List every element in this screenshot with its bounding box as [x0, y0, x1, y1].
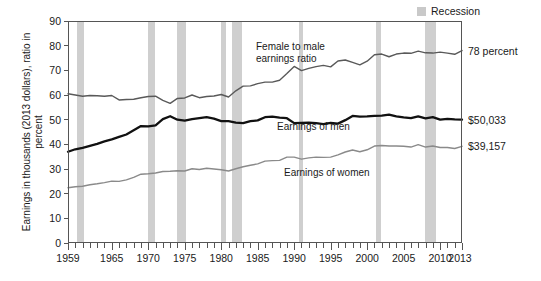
- y-axis-tick-mark: [64, 45, 68, 46]
- y-axis-tick-label: 80: [45, 40, 61, 52]
- x-axis-tick-mark: [280, 243, 281, 248]
- x-axis-tick-mark: [462, 243, 463, 250]
- x-axis-tick-mark: [112, 243, 113, 250]
- x-axis-tick-mark: [199, 243, 200, 248]
- y-axis-tick: 40: [45, 138, 68, 150]
- x-axis-tick-mark: [323, 243, 324, 248]
- y-axis-tick-label: 40: [45, 138, 61, 150]
- x-axis-tick-mark: [236, 243, 237, 248]
- x-axis-tick-label: 2013: [448, 252, 471, 264]
- x-axis-tick-label: 1975: [173, 252, 196, 264]
- y-axis-tick-mark: [64, 21, 68, 22]
- x-axis-tick-mark: [316, 243, 317, 248]
- x-axis-tick-mark: [163, 243, 164, 248]
- x-axis-tick-mark: [258, 243, 259, 250]
- x-axis-tick-mark: [389, 243, 390, 248]
- x-axis-tick-mark: [301, 243, 302, 248]
- x-axis-tick-mark: [360, 243, 361, 248]
- x-axis-tick-mark: [309, 243, 310, 248]
- x-axis-tick-mark: [426, 243, 427, 248]
- x-axis-tick-mark: [404, 243, 405, 250]
- x-axis-tick-label: 1959: [56, 252, 79, 264]
- annotation-women: Earnings of women: [284, 167, 370, 179]
- callout-women: $39,157: [468, 140, 506, 152]
- callout-men: $50,033: [468, 114, 506, 126]
- x-axis-tick-mark: [440, 243, 441, 250]
- x-axis-tick-mark: [177, 243, 178, 248]
- x-axis-tick-mark: [411, 243, 412, 248]
- chart-root: Recession Earnings in thousands (2013 do…: [0, 0, 541, 281]
- x-axis-tick-mark: [287, 243, 288, 248]
- x-axis-tick-mark: [418, 243, 419, 248]
- x-axis-tick-mark: [229, 243, 230, 248]
- y-axis-tick: 90: [45, 15, 68, 27]
- x-axis-tick-label: 1980: [210, 252, 233, 264]
- y-axis-tick-label: 60: [45, 89, 61, 101]
- x-axis-tick-mark: [338, 243, 339, 248]
- y-axis-tick-label: 0: [45, 237, 61, 249]
- plot-area: 0102030405060708090 19591965197019751980…: [68, 21, 462, 243]
- x-axis-tick-label: 2005: [392, 252, 415, 264]
- x-axis-tick-mark: [294, 243, 295, 250]
- x-axis-tick-label: 2000: [355, 252, 378, 264]
- callout-ratio: 78 percent: [468, 45, 518, 57]
- x-axis-tick-mark: [214, 243, 215, 248]
- x-axis-tick-mark: [243, 243, 244, 248]
- x-axis-tick-mark: [265, 243, 266, 248]
- x-axis-tick-mark: [345, 243, 346, 248]
- x-axis-tick-mark: [353, 243, 354, 248]
- y-axis-title: Earnings in thousands (2013 dollars), ra…: [21, 17, 45, 247]
- x-axis-tick-mark: [68, 243, 69, 250]
- y-axis-tick-label: 30: [45, 163, 61, 175]
- x-axis-tick-mark: [97, 243, 98, 248]
- x-axis-tick-mark: [83, 243, 84, 248]
- y-axis-tick-mark: [64, 144, 68, 145]
- x-axis-tick-mark: [148, 243, 149, 250]
- y-axis-tick-mark: [64, 218, 68, 219]
- x-axis-tick-mark: [141, 243, 142, 248]
- y-axis-tick: 10: [45, 212, 68, 224]
- x-axis-tick-label: 1990: [282, 252, 305, 264]
- x-axis-tick-label: 1985: [246, 252, 269, 264]
- x-axis-tick-mark: [455, 243, 456, 248]
- y-axis-tick: 30: [45, 163, 68, 175]
- y-axis-tick: 70: [45, 64, 68, 76]
- x-axis-tick-mark: [272, 243, 273, 248]
- y-axis-tick-mark: [64, 119, 68, 120]
- x-axis-tick-mark: [126, 243, 127, 248]
- x-axis-tick-mark: [447, 243, 448, 248]
- y-axis-tick: 0: [45, 237, 68, 249]
- x-axis-tick-mark: [396, 243, 397, 248]
- x-axis-tick-label: 1970: [137, 252, 160, 264]
- x-axis-tick-label: 1965: [100, 252, 123, 264]
- y-axis-tick: 80: [45, 40, 68, 52]
- x-axis-tick-mark: [367, 243, 368, 250]
- x-axis-tick-mark: [75, 243, 76, 248]
- y-axis-tick-mark: [64, 70, 68, 71]
- x-axis-tick-mark: [433, 243, 434, 248]
- y-axis-tick-label: 20: [45, 188, 61, 200]
- x-axis-tick-mark: [185, 243, 186, 250]
- x-axis-tick-mark: [331, 243, 332, 250]
- x-axis-tick-mark: [104, 243, 105, 248]
- x-axis-tick-mark: [207, 243, 208, 248]
- x-axis-tick-mark: [90, 243, 91, 248]
- y-axis-tick-mark: [64, 95, 68, 96]
- y-axis-tick-mark: [64, 193, 68, 194]
- x-axis-tick-mark: [170, 243, 171, 248]
- x-axis-tick-mark: [382, 243, 383, 248]
- x-axis-tick-mark: [119, 243, 120, 248]
- recession-swatch-icon: [417, 7, 426, 16]
- x-axis-tick-mark: [134, 243, 135, 248]
- y-axis-tick-mark: [64, 169, 68, 170]
- y-axis-tick: 20: [45, 188, 68, 200]
- x-axis-tick-mark: [221, 243, 222, 250]
- chart-legend: Recession: [417, 6, 480, 17]
- annotation-men: Earnings of men: [277, 121, 350, 133]
- x-axis-tick-mark: [374, 243, 375, 248]
- y-axis-tick-label: 50: [45, 114, 61, 126]
- x-axis-tick-mark: [156, 243, 157, 248]
- y-axis-tick-label: 70: [45, 64, 61, 76]
- x-axis-tick-mark: [250, 243, 251, 248]
- y-axis-tick: 60: [45, 89, 68, 101]
